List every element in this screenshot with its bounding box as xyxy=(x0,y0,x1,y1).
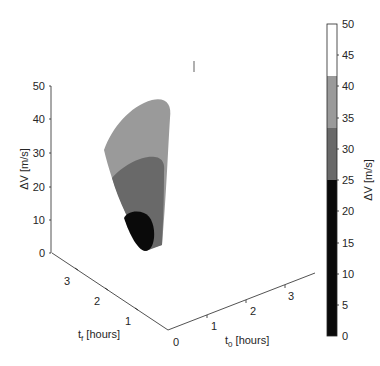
svg-text:30: 30 xyxy=(33,147,45,159)
svg-text:45: 45 xyxy=(342,49,354,61)
tf-axis-label: tf [hours] xyxy=(78,328,120,343)
svg-text:10: 10 xyxy=(342,268,354,280)
svg-text:20: 20 xyxy=(33,181,45,193)
svg-text:15: 15 xyxy=(342,237,354,249)
svg-text:0: 0 xyxy=(39,247,45,259)
surface-plot-figure: 50 40 30 20 10 0 ΔV [m/s] 3 2 1 tf [hour… xyxy=(0,0,380,366)
svg-text:3: 3 xyxy=(64,275,70,287)
svg-text:40: 40 xyxy=(33,113,45,125)
surface-edge-fragment xyxy=(193,61,195,72)
z-axis-label: ΔV [m/s] xyxy=(18,148,30,190)
colorbar-label: ΔV [m/s] xyxy=(362,159,374,201)
svg-text:1: 1 xyxy=(211,320,217,332)
svg-text:50: 50 xyxy=(33,80,45,92)
svg-text:35: 35 xyxy=(342,112,354,124)
svg-text:5: 5 xyxy=(342,299,348,311)
svg-text:3: 3 xyxy=(288,290,294,302)
surface-band-black xyxy=(124,212,154,251)
z-tick-labels: 50 40 30 20 10 0 xyxy=(33,80,45,259)
svg-text:0: 0 xyxy=(342,330,348,342)
z-axis xyxy=(49,86,51,253)
colorbar-tick-labels: 50 45 40 35 30 25 20 15 10 5 0 xyxy=(342,18,354,342)
colorbar xyxy=(327,24,339,336)
surface xyxy=(104,61,195,251)
svg-text:40: 40 xyxy=(342,80,354,92)
svg-text:2: 2 xyxy=(250,305,256,317)
svg-text:20: 20 xyxy=(342,205,354,217)
tf-axis xyxy=(52,253,168,330)
svg-text:30: 30 xyxy=(342,143,354,155)
svg-text:25: 25 xyxy=(342,174,354,186)
svg-text:0: 0 xyxy=(173,336,179,348)
svg-text:10: 10 xyxy=(33,214,45,226)
svg-text:2: 2 xyxy=(94,295,100,307)
svg-text:50: 50 xyxy=(342,18,354,30)
svg-text:1: 1 xyxy=(125,315,131,327)
t0-axis-label: t0 [hours] xyxy=(225,334,269,349)
